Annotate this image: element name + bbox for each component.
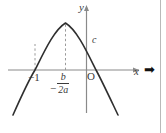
y-axis-arrowhead — [84, 5, 89, 11]
left-root-label: −1 — [28, 72, 40, 83]
y-intercept-label-c: c — [92, 35, 96, 45]
origin-label: O — [87, 71, 95, 82]
vertex-x-label: − b 2a — [50, 72, 69, 95]
vertex-minus-sign: − — [50, 83, 56, 94]
right-pointer-arrow-icon: ➡ — [144, 64, 157, 76]
vertex-fraction-denominator: 2a — [57, 85, 69, 96]
page-edge-rule — [160, 0, 161, 133]
vertex-fraction-numerator: b — [60, 72, 67, 83]
parabola-graph-canvas — [0, 0, 166, 133]
vertex-fraction: b 2a — [57, 72, 69, 95]
parabola-figure: y x O c −1 − b 2a ➡ — [0, 0, 166, 133]
y-axis-label: y — [79, 2, 84, 13]
x-axis-label: x — [134, 66, 139, 77]
y-axis — [84, 5, 89, 113]
